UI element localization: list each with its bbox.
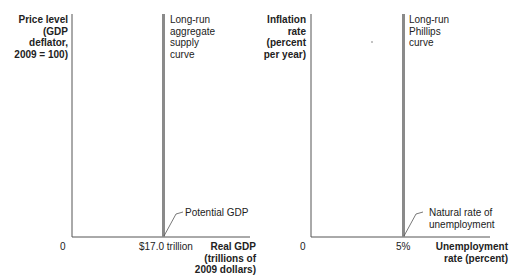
potential-gdp-annotation: Potential GDP — [185, 207, 248, 219]
lrpc-label: Long-run Phillips curve — [409, 14, 449, 49]
lras-label-line: supply — [170, 37, 215, 49]
right-xlabel-line: Unemployment — [420, 241, 508, 253]
right-x-axis-label: Unemployment rate (percent) — [420, 241, 508, 264]
right-ylabel-line: per year) — [250, 49, 306, 61]
left-xlabel-line: (trillions of — [190, 253, 256, 265]
left-x-tick-label: $17.0 trillion — [139, 241, 193, 253]
right-origin-label: 0 — [300, 241, 306, 253]
left-xlabel-line: Real GDP — [190, 241, 256, 253]
right-ylabel-line: (percent — [250, 37, 306, 49]
left-ylabel-line: Price level — [2, 14, 68, 26]
left-xlabel-line: 2009 dollars) — [190, 264, 256, 276]
right-ylabel-line: rate — [250, 26, 306, 38]
lrpc-label-line: Long-run — [409, 14, 449, 26]
left-ylabel-line: 2009 = 100) — [2, 49, 68, 61]
natural-rate-annotation: Natural rate of unemployment — [429, 207, 495, 230]
left-x-axis-label: Real GDP (trillions of 2009 dollars) — [190, 241, 256, 276]
left-ylabel-line: (GDP deflator, — [2, 26, 68, 49]
lrpc-label-line: Phillips — [409, 26, 449, 38]
lrpc-label-line: curve — [409, 37, 449, 49]
left-y-axis-label: Price level (GDP deflator, 2009 = 100) — [2, 14, 68, 60]
lras-label-line: curve — [170, 49, 215, 61]
right-xlabel-line: rate (percent) — [420, 253, 508, 265]
right-y-axis-label: Inflation rate (percent per year) — [250, 14, 306, 60]
natural-rate-line: Natural rate of — [429, 207, 495, 219]
left-origin-label: 0 — [60, 241, 66, 253]
lras-label-line: Long-run — [170, 14, 215, 26]
potential-gdp-leader — [164, 212, 183, 236]
lras-label: Long-run aggregate supply curve — [170, 14, 215, 60]
right-x-tick-label: 5% — [396, 241, 410, 253]
natural-rate-line: unemployment — [429, 219, 495, 231]
natural-rate-leader — [404, 212, 423, 236]
lras-label-line: aggregate — [170, 26, 215, 38]
right-ylabel-line: Inflation — [250, 14, 306, 26]
stray-dot — [371, 41, 373, 43]
